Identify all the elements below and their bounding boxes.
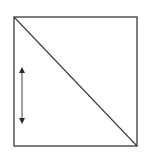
diagram-canvas bbox=[0, 0, 144, 157]
diagonal-line bbox=[14, 17, 137, 146]
